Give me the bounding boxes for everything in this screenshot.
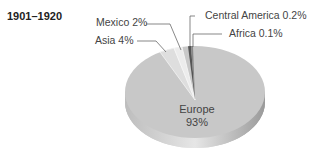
- leader-asia: [137, 41, 166, 52]
- label-europe-pct: 93%: [175, 116, 219, 129]
- label-asia: Asia 4%: [95, 34, 134, 46]
- label-africa: Africa 0.1%: [229, 27, 283, 39]
- label-europe: Europe 93%: [175, 103, 219, 129]
- label-europe-name: Europe: [175, 103, 219, 116]
- leader-africa: [193, 34, 222, 47]
- leader-central-america: [190, 16, 195, 47]
- leader-mexico: [146, 24, 181, 50]
- pie-chart: [0, 0, 310, 157]
- label-mexico: Mexico 2%: [96, 16, 147, 28]
- label-central-america: Central America 0.2%: [205, 9, 307, 21]
